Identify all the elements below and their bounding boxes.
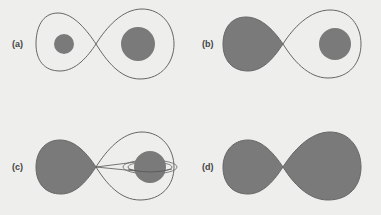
panel-b: (b) (202, 10, 361, 78)
filled-lobe-star (36, 140, 96, 194)
large-star (121, 27, 155, 61)
contact-binary-lobes (223, 132, 361, 200)
companion-star (134, 151, 166, 183)
roche-lobe-diagram: (a) (b) (c) (d) (0, 0, 381, 215)
panel-label-c: (c) (12, 162, 23, 172)
panel-d: (d) (202, 132, 361, 200)
filled-lobe-star (223, 17, 283, 71)
panel-label-a: (a) (12, 39, 23, 49)
small-star (54, 34, 74, 54)
panel-label-d: (d) (202, 162, 214, 172)
panel-label-b: (b) (202, 39, 214, 49)
panel-c: (c) (12, 132, 177, 200)
panel-a: (a) (12, 9, 174, 79)
companion-star (319, 28, 351, 60)
